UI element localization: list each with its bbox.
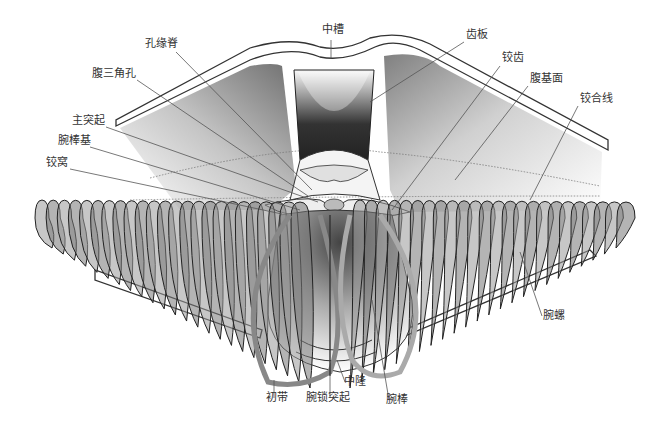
left-spiralium	[35, 200, 313, 388]
label-median-sulcus: 中槽	[322, 24, 344, 36]
label-dental-plate: 齿板	[466, 29, 488, 41]
label-delthyrium: 腹三角孔	[92, 68, 136, 80]
label-delthyrial-ridge: 孔缘脊	[145, 38, 178, 50]
label-spiralium: 腕螺	[543, 310, 565, 322]
label-hinge-line: 铰合线	[580, 93, 613, 105]
brachiopod-diagram	[0, 0, 658, 434]
label-primary-lamella: 初带	[266, 392, 288, 404]
label-crura: 腕棒	[386, 394, 408, 406]
label-crural-base: 腕棒基	[58, 135, 91, 147]
label-dental-socket: 铰窝	[46, 157, 68, 169]
label-ventral-interarea: 腹基面	[530, 73, 563, 85]
label-cardinal-process: 主突起	[72, 115, 105, 127]
label-jugal-process: 腕锁突起	[306, 392, 350, 404]
right-spiralium	[350, 200, 635, 388]
label-median-fold: 中隆	[344, 376, 366, 388]
label-hinge-tooth: 铰齿	[502, 52, 524, 64]
